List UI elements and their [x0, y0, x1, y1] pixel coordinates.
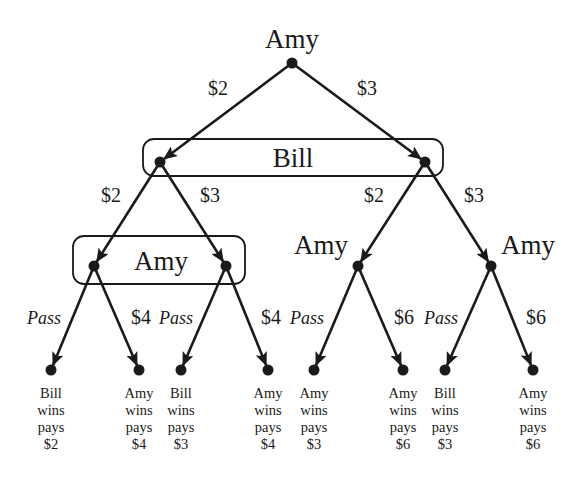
node-player-label: Amy: [294, 230, 349, 260]
outcome-line2: wins: [167, 402, 195, 418]
terminal-node: [528, 365, 539, 376]
outcome-amount: $6: [526, 436, 541, 452]
outcome-winner: Bill: [170, 385, 192, 401]
outcome-winner: Amy: [125, 385, 155, 401]
terminal-node: [134, 365, 145, 376]
root-node: [287, 58, 298, 69]
outcome-winner: Bill: [434, 385, 456, 401]
outcome-amount: $3: [174, 436, 189, 452]
decision-node: [155, 157, 166, 168]
decision-node: [89, 261, 100, 272]
outcome-winner: Bill: [40, 385, 62, 401]
outcome-line3: pays: [168, 419, 195, 435]
outcome-amount: $6: [396, 436, 411, 452]
node-player-label: Amy: [501, 230, 556, 260]
decision-node: [486, 261, 497, 272]
outcome-winner: Amy: [519, 385, 549, 401]
terminal-node: [398, 365, 409, 376]
outcome-amount: $2: [44, 436, 59, 452]
decision-node: [420, 157, 431, 168]
edge-n2-n6: [425, 162, 488, 262]
outcome-amount: $3: [438, 436, 453, 452]
edge-label: Pass: [26, 308, 61, 328]
edge-label: Pass: [158, 308, 193, 328]
edge-label: Pass: [423, 308, 458, 328]
outcome-line2: wins: [519, 402, 547, 418]
terminal-node: [309, 365, 320, 376]
edge-label: $3: [464, 184, 484, 206]
decision-node: [353, 261, 364, 272]
root-player-label: Amy: [265, 24, 320, 54]
edge-label: $4: [261, 306, 281, 328]
outcome-line2: wins: [125, 402, 153, 418]
terminal-node: [263, 365, 274, 376]
outcome-line2: wins: [254, 402, 282, 418]
edge-n2-n5: [361, 162, 425, 262]
outcome-winner: Amy: [389, 385, 419, 401]
outcome-line2: wins: [37, 402, 65, 418]
outcome-amount: $3: [307, 436, 322, 452]
game-tree-diagram: BillAmy$2$3$2$3$2$3Pass$4Pass$4Pass$6Pas…: [0, 0, 584, 477]
edge-label: Pass: [289, 308, 324, 328]
edge-label: $3: [200, 184, 220, 206]
edge-label: $2: [364, 184, 384, 206]
info-set-player-label: Bill: [273, 143, 314, 173]
outcome-line3: pays: [126, 419, 153, 435]
outcome-winner: Amy: [300, 385, 330, 401]
outcome-line3: pays: [301, 419, 328, 435]
outcome-line3: pays: [38, 419, 65, 435]
outcome-winner: Amy: [254, 385, 284, 401]
outcome-line2: wins: [431, 402, 459, 418]
outcome-line3: pays: [432, 419, 459, 435]
edge-label: $2: [101, 184, 121, 206]
edge-label: $4: [131, 306, 151, 328]
terminal-node: [176, 365, 187, 376]
edge-label: $6: [526, 306, 546, 328]
outcome-amount: $4: [132, 436, 147, 452]
edge-label: $3: [357, 77, 377, 99]
terminal-node: [46, 365, 57, 376]
labels: BillAmy$2$3$2$3$2$3Pass$4Pass$4Pass$6Pas…: [26, 24, 556, 452]
outcome-line3: pays: [390, 419, 417, 435]
outcome-amount: $4: [261, 436, 276, 452]
info-set-player-label: Amy: [134, 246, 189, 276]
outcome-line2: wins: [300, 402, 328, 418]
edge-label: $2: [208, 77, 228, 99]
outcome-line2: wins: [389, 402, 417, 418]
edge-label: $6: [394, 306, 414, 328]
decision-node: [221, 261, 232, 272]
outcome-line3: pays: [255, 419, 282, 435]
terminal-node: [440, 365, 451, 376]
outcome-line3: pays: [520, 419, 547, 435]
